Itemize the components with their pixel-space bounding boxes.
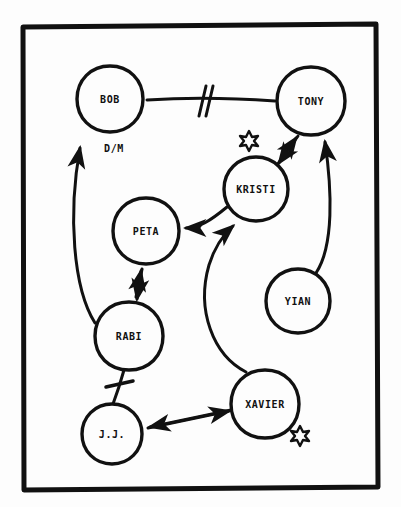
node-rabi[interactable]	[95, 302, 163, 370]
edge-kristi-peta	[186, 207, 227, 228]
edge-rabi-bob	[74, 148, 95, 323]
edge-bob-tony	[147, 86, 275, 116]
edge-peta-rabi	[136, 269, 142, 299]
node-bob[interactable]	[77, 66, 143, 132]
node-kristi[interactable]	[224, 157, 288, 221]
node-tony[interactable]	[277, 67, 345, 135]
node-peta[interactable]	[113, 198, 179, 264]
sociogram-sketch	[0, 0, 401, 507]
edge-kristi-tony	[277, 136, 298, 165]
edge-xavier-jj	[148, 410, 231, 428]
node-xavier[interactable]	[231, 370, 299, 438]
star-icon	[240, 131, 258, 151]
node-jj[interactable]	[82, 404, 142, 464]
edge-rabi-jj	[106, 370, 133, 404]
node-yian[interactable]	[266, 269, 330, 333]
diagram-canvas: BOB TONY KRISTI PETA YIAN RABI XAVIER J.…	[0, 0, 401, 507]
star-icon	[291, 426, 309, 446]
edge-xavier-kristi	[205, 226, 246, 372]
edge-yian-tony	[316, 142, 330, 273]
